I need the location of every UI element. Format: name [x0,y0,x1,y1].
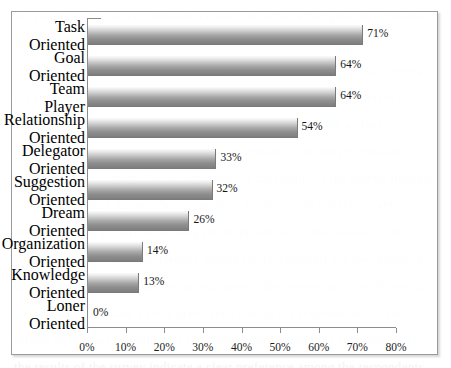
bar-value-label: 26% [193,213,214,225]
bar-value-label: 0% [93,306,108,318]
category-label: SuggestionOriented [7,175,85,206]
category-label-line: Task [55,18,85,36]
bar-value-label: 54% [302,120,323,132]
bar-value-label: 64% [340,58,361,70]
category-label-line: Dream [41,204,85,222]
bar-row: TaskOriented71% [87,20,396,51]
bar-value-label: 33% [220,151,241,163]
bar [88,211,189,231]
category-label-line: Delegator [22,142,85,160]
category-label: Team Player [7,82,85,113]
category-label-line: Suggestion [14,173,85,191]
bar [88,56,336,76]
category-label-line: Knowledge [11,266,85,284]
chart-frame: 0%10%20%30%40%50%60%70%80% TaskOriented7… [11,11,438,355]
x-axis-tick-label: 50% [270,341,291,353]
category-label: GoalOriented [7,51,85,82]
bar-row: DelegatorOriented33% [87,144,396,175]
x-axis-tick [396,328,397,333]
bar-value-label: 14% [147,244,168,256]
bar-row: GoalOriented64% [87,51,396,82]
x-axis-tick-label: 40% [231,341,252,353]
x-axis-tick-label: 60% [308,341,329,353]
category-label: DreamOriented [7,206,85,237]
category-label: OrganizationOriented [7,237,85,268]
bar-chart: 0%10%20%30%40%50%60%70%80% TaskOriented7… [12,12,437,354]
category-label: RelationshipOriented [7,113,85,144]
x-axis-tick-label: 80% [385,341,406,353]
bar-row: KnowledgeOriented13% [87,268,396,299]
bar [88,242,143,262]
bar-row: SuggestionOriented32% [87,175,396,206]
bar-value-label: 32% [217,182,238,194]
bar-value-label: 71% [367,27,388,39]
bar [88,87,336,107]
bar-row: Team Player64% [87,82,396,113]
bar [88,149,216,169]
bar-row: OrganizationOriented14% [87,237,396,268]
category-label-line: Organization [2,235,85,253]
x-axis-tick-label: 20% [154,341,175,353]
x-axis-tick-label: 30% [192,341,213,353]
category-label: LonerOriented [7,299,85,330]
bar [88,25,363,45]
bar-value-label: 13% [143,275,164,287]
bar-row: DreamOriented26% [87,206,396,237]
bar [88,273,139,293]
bar-row: RelationshipOriented54% [87,113,396,144]
plot-top-border-stub [87,18,101,19]
bar-value-label: 64% [340,89,361,101]
category-label: TaskOriented [7,20,85,51]
x-axis-tick-label: 10% [115,341,136,353]
bar [88,118,298,138]
category-label: DelegatorOriented [7,144,85,175]
category-label: KnowledgeOriented [7,268,85,299]
x-axis-tick-label: 70% [347,341,368,353]
plot-area: 0%10%20%30%40%50%60%70%80% TaskOriented7… [87,18,396,328]
x-axis-tick-label: 0% [79,341,94,353]
category-label-line: Oriented [29,315,85,333]
category-label-line: Loner [47,297,85,315]
category-label-line: Goal [54,49,85,67]
category-label-line: Relationship [4,111,85,129]
bar [88,180,213,200]
bar-row: LonerOriented0% [87,299,396,330]
